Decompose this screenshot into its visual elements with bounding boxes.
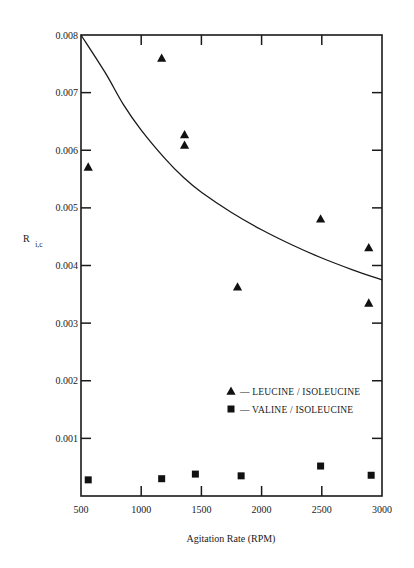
y-tick-label: 0.004 xyxy=(56,260,79,271)
y-tick-label: 0.001 xyxy=(56,433,79,444)
leucine-isoleucine-point xyxy=(84,162,93,170)
valine-isoleucine-point xyxy=(238,472,245,479)
x-tick-label: 3000 xyxy=(372,504,392,515)
x-tick-label: 1500 xyxy=(191,504,211,515)
x-axis-title: Agitation Rate (RPM) xyxy=(187,533,276,545)
x-tick-label: 2000 xyxy=(252,504,272,515)
legend-label: — LEUCINE / ISOLEUCINE xyxy=(239,387,360,397)
leucine-isoleucine-point xyxy=(180,140,189,148)
valine-isoleucine-point xyxy=(317,463,324,470)
valine-isoleucine-point xyxy=(158,475,165,482)
x-tick-label: 1000 xyxy=(131,504,151,515)
leucine-isoleucine-point xyxy=(364,298,373,306)
valine-isoleucine-point xyxy=(192,471,199,478)
valine-isoleucine-point xyxy=(368,472,375,479)
y-axis-title: R i,c xyxy=(23,233,43,249)
legend-label: — VALINE / ISOLEUCINE xyxy=(239,405,353,415)
x-tick-label: 2500 xyxy=(312,504,332,515)
y-axis-ticks: 0.0010.0020.0030.0040.0050.0060.0070.008 xyxy=(56,30,383,444)
y-tick-label: 0.005 xyxy=(56,202,79,213)
y-axis-title-main: R xyxy=(23,233,30,244)
y-tick-label: 0.008 xyxy=(56,30,79,41)
leucine-isoleucine-point xyxy=(180,130,189,138)
leucine-isoleucine-point xyxy=(316,214,325,222)
x-axis-ticks: 50010001500200025003000 xyxy=(74,35,393,515)
legend-triangle-icon xyxy=(226,386,235,394)
leucine-isoleucine-point xyxy=(364,243,373,251)
y-tick-label: 0.007 xyxy=(56,87,79,98)
fit-curve-group xyxy=(81,35,382,280)
legend: — LEUCINE / ISOLEUCINE— VALINE / ISOLEUC… xyxy=(226,386,360,414)
valine-isoleucine-point xyxy=(85,476,92,483)
y-tick-label: 0.006 xyxy=(56,145,79,156)
data-points xyxy=(84,53,375,483)
plot-frame xyxy=(81,35,382,496)
legend-square-icon xyxy=(228,406,235,413)
y-tick-label: 0.002 xyxy=(56,375,79,386)
y-tick-label: 0.003 xyxy=(56,318,79,329)
y-axis-title-subscript: i,c xyxy=(35,240,43,249)
fit-curve xyxy=(81,35,382,280)
x-tick-label: 500 xyxy=(74,504,89,515)
plot-border xyxy=(81,35,382,496)
leucine-isoleucine-point xyxy=(233,282,242,290)
chart: 50010001500200025003000 0.0010.0020.0030… xyxy=(0,0,414,568)
leucine-isoleucine-point xyxy=(157,53,166,61)
